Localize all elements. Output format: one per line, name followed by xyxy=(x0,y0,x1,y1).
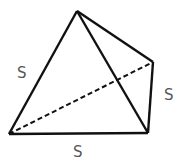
edge-apex-front-right xyxy=(77,11,148,133)
edge-back-right-front-right xyxy=(148,62,153,133)
label-bottom-edge: S xyxy=(73,143,83,161)
tetrahedron-diagram: S S S xyxy=(0,0,182,166)
edge-hidden-front-left-back-right xyxy=(9,62,153,134)
edge-front-left-front-right xyxy=(9,133,148,134)
label-right-edge: S xyxy=(164,86,174,104)
edge-apex-back-right xyxy=(77,11,153,62)
label-left-edge: S xyxy=(17,64,27,82)
